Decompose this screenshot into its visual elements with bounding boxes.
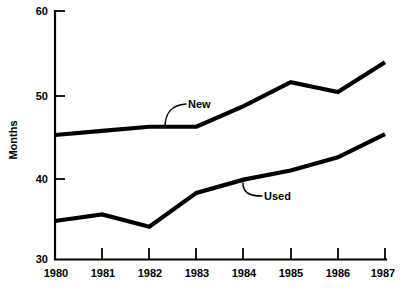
chart-canvas: 60 50 40 30 1980 1981 1982 1983 1984 198… bbox=[0, 0, 403, 289]
x-tick-label-1983: 1983 bbox=[185, 267, 209, 279]
y-tick-label-50: 50 bbox=[36, 90, 48, 102]
x-tick-label-1984: 1984 bbox=[232, 267, 257, 279]
leader-line-used bbox=[243, 183, 262, 196]
series-label-used: Used bbox=[264, 190, 291, 202]
y-tick-marks bbox=[55, 11, 65, 179]
x-tick-label-1987: 1987 bbox=[371, 267, 395, 279]
axis-lines bbox=[55, 11, 386, 260]
x-tick-labels: 1980 1981 1982 1983 1984 1985 1986 1987 bbox=[44, 267, 395, 279]
series-line-new bbox=[55, 62, 385, 135]
series-group bbox=[55, 62, 385, 227]
series-line-used bbox=[55, 134, 385, 227]
x-tick-label-1980: 1980 bbox=[44, 267, 68, 279]
series-labels: New Used bbox=[188, 98, 291, 202]
x-tick-label-1981: 1981 bbox=[91, 267, 115, 279]
y-tick-labels: 60 50 40 30 bbox=[36, 5, 48, 265]
y-axis-title: Months bbox=[7, 120, 19, 159]
y-tick-label-30: 30 bbox=[36, 253, 48, 265]
x-tick-marks bbox=[102, 248, 385, 259]
axes-group bbox=[55, 11, 386, 260]
y-tick-label-60: 60 bbox=[36, 5, 48, 17]
y-tick-label-40: 40 bbox=[36, 173, 48, 185]
x-tick-label-1985: 1985 bbox=[279, 267, 303, 279]
x-tick-label-1982: 1982 bbox=[138, 267, 162, 279]
line-chart: 60 50 40 30 1980 1981 1982 1983 1984 198… bbox=[0, 0, 403, 289]
x-tick-label-1986: 1986 bbox=[326, 267, 350, 279]
series-label-new: New bbox=[188, 98, 211, 110]
leader-line-new bbox=[165, 104, 186, 128]
